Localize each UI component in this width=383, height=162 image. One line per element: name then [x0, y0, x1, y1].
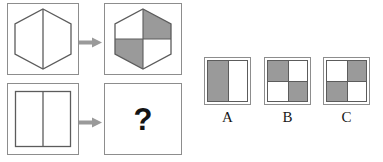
- answer-option-b-label: B: [264, 109, 311, 126]
- option-c-cell-br: [347, 81, 367, 101]
- option-b-cell-tl: [268, 61, 288, 81]
- option-a-cell-left: [208, 61, 228, 101]
- square-outline-figure: [8, 84, 78, 154]
- option-c-cell-tr: [347, 61, 367, 81]
- answer-options: A B: [196, 0, 383, 162]
- matrix-cell-row1-source: [7, 3, 79, 75]
- option-b-cell-bl: [268, 81, 288, 101]
- matrix-cell-row1-result: [104, 3, 182, 75]
- answer-option-c-figure: [323, 57, 370, 105]
- matrix-cell-row2-result: ?: [104, 83, 182, 155]
- option-c-cell-bl: [327, 81, 347, 101]
- analogy-matrix: ?: [0, 0, 190, 162]
- missing-answer-placeholder: ?: [105, 84, 181, 154]
- hexagon-outline-figure: [8, 4, 78, 74]
- option-b-cell-br: [288, 81, 308, 101]
- option-a-grid: [207, 60, 248, 102]
- right-arrow-icon-row1: [79, 34, 103, 45]
- option-c-cell-tl: [327, 61, 347, 81]
- option-b-cell-tr: [288, 61, 308, 81]
- answer-option-a-label: A: [204, 109, 251, 126]
- question-mark-glyph: ?: [134, 104, 153, 135]
- right-arrow-icon-row2: [79, 114, 103, 125]
- option-a-cell-right: [228, 61, 248, 101]
- answer-option-a[interactable]: A: [204, 57, 251, 126]
- visual-analogy-puzzle: ? A B: [0, 0, 383, 162]
- matrix-cell-row2-source: [7, 83, 79, 155]
- option-c-grid: [326, 60, 367, 102]
- hexagon-checkerboard-figure: [105, 4, 181, 74]
- answer-option-a-figure: [204, 57, 251, 105]
- answer-option-b[interactable]: B: [264, 57, 311, 126]
- answer-option-b-figure: [264, 57, 311, 105]
- answer-option-c-label: C: [323, 109, 370, 126]
- answer-option-c[interactable]: C: [323, 57, 370, 126]
- option-b-grid: [267, 60, 308, 102]
